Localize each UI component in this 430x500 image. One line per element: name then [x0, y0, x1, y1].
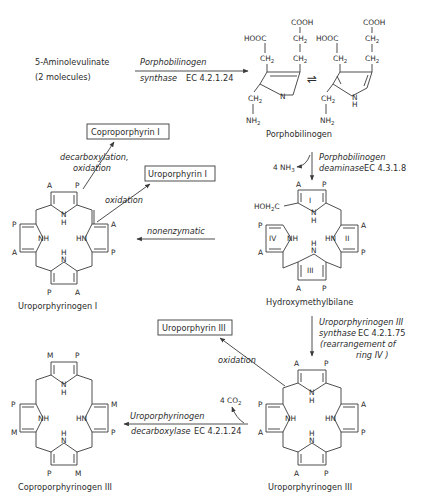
- uroporphyrin-i-label: Uroporphyrin I: [148, 169, 207, 179]
- step-pbg-deaminase: 4 NH3 Porphobilinogen deaminase EC 4.3.1…: [273, 152, 406, 180]
- svg-text:NH2: NH2: [246, 116, 261, 126]
- coproporphyrinogen-iii-structure: N H M P NH P M HN M P N H P M: [11, 351, 117, 478]
- svg-text:HOOC: HOOC: [244, 34, 266, 43]
- svg-text:COOH: COOH: [291, 18, 313, 27]
- coproporphyrinogen-iii-label: Coproporphyrinogen III: [18, 482, 112, 492]
- hydroxymethylbilane-label: Hydroxymethylbilane: [266, 297, 353, 307]
- enzyme-name-line1: Porphobilinogen: [140, 57, 206, 67]
- svg-text:P: P: [47, 469, 52, 478]
- svg-text:A: A: [361, 400, 366, 409]
- svg-text:A: A: [258, 428, 263, 437]
- svg-text:P: P: [11, 400, 16, 409]
- step-uro-decarboxylase: 4 CO2 Uroporphyrinogen decarboxylase EC …: [124, 396, 248, 436]
- svg-text:A: A: [294, 469, 299, 478]
- uroporphyrinogen-i-structure: N H A P NH P A HN A P N H P A: [12, 181, 116, 297]
- svg-text:HN: HN: [325, 234, 336, 243]
- svg-text:A: A: [75, 288, 80, 297]
- svg-text:M: M: [47, 351, 53, 360]
- svg-text:A: A: [361, 221, 366, 230]
- svg-text:P: P: [75, 351, 80, 360]
- svg-text:IV: IV: [269, 234, 276, 243]
- porphobilinogen-label: Porphobilinogen: [266, 129, 332, 139]
- svg-text:H: H: [61, 248, 67, 257]
- svg-text:H: H: [311, 216, 317, 225]
- substrate-name: 5-Aminolevulinate: [35, 57, 109, 67]
- byproduct-co2: 4 CO2: [220, 396, 242, 406]
- svg-text:CH2: CH2: [293, 34, 307, 44]
- enzyme-name-line2: decarboxylase: [131, 426, 191, 436]
- svg-text:HN: HN: [325, 414, 336, 423]
- enzyme-name-line1: Porphobilinogen: [319, 152, 385, 162]
- svg-text:P: P: [47, 288, 52, 297]
- svg-text:P: P: [111, 248, 116, 257]
- hydroxymethylbilane-structure: I N H A P HOH2C II HN A P III N H A P IV: [254, 180, 366, 293]
- svg-text:H: H: [309, 396, 315, 405]
- svg-text:P: P: [322, 284, 327, 293]
- svg-text:P: P: [75, 181, 80, 190]
- svg-text:CH2: CH2: [365, 34, 379, 44]
- byproduct-arrow: [232, 407, 244, 423]
- svg-text:P: P: [111, 428, 116, 437]
- svg-text:NH: NH: [38, 414, 49, 423]
- hydroxymethyl-group: HOH2C: [254, 202, 280, 212]
- svg-text:CH2: CH2: [248, 94, 262, 104]
- svg-text:P: P: [361, 428, 366, 437]
- uroporphyrinogen-iii-label: Uroporphyrinogen III: [268, 482, 352, 492]
- step-note-line2: ring IV ): [356, 350, 388, 360]
- svg-text:NH2: NH2: [320, 116, 335, 126]
- svg-text:I: I: [309, 196, 311, 205]
- svg-text:H: H: [309, 429, 315, 438]
- step-nonenzymatic: nonenzymatic: [137, 226, 215, 239]
- step-uro-iii-synthase: Uroporphyrinogen III synthase EC 4.2.1.7…: [312, 316, 405, 360]
- svg-text:P: P: [322, 180, 327, 189]
- porphobilinogen-tautomer-2: COOH CH2 HOOC CH2 CH2 N H CH2 NH2: [316, 18, 385, 126]
- svg-text:H: H: [311, 239, 317, 248]
- svg-text:A: A: [258, 248, 263, 257]
- coproporphyrin-i-label: Coproporphyrin I: [91, 127, 160, 137]
- svg-text:HN: HN: [76, 234, 87, 243]
- uroporphyrinogen-i-label: Uroporphyrinogen I: [18, 301, 97, 311]
- svg-text:A: A: [296, 284, 301, 293]
- substrate-count: (2 molecules): [35, 72, 91, 82]
- svg-text:P: P: [258, 221, 263, 230]
- svg-text:II: II: [345, 234, 349, 243]
- svg-text:HN: HN: [76, 414, 87, 423]
- side-reaction-uroporphyrin-i: Uroporphyrin I oxidation: [97, 166, 215, 222]
- oxidation-label: oxidation: [218, 355, 256, 365]
- equilibrium-arrow: ⇌: [307, 72, 317, 86]
- svg-text:HOOC: HOOC: [316, 34, 338, 43]
- svg-text:H: H: [352, 100, 358, 109]
- uroporphyrinogen-iii-structure: N H A P NH P A HN A P N H A P: [258, 359, 366, 478]
- step-pbg-synthase: Porphobilinogen synthase EC 4.2.1.24: [135, 57, 248, 83]
- svg-text:CH2: CH2: [321, 94, 335, 104]
- svg-text:A: A: [296, 180, 301, 189]
- oxidation-label: oxidation: [73, 163, 111, 173]
- svg-text:A: A: [111, 220, 116, 229]
- svg-text:N: N: [280, 92, 286, 101]
- svg-text:P: P: [12, 220, 17, 229]
- svg-text:P: P: [324, 469, 329, 478]
- enzyme-name-line1: Uroporphyrinogen III: [319, 317, 404, 327]
- svg-text:P: P: [361, 248, 366, 257]
- step-label: nonenzymatic: [147, 226, 205, 236]
- decarboxylation-label: decarboxylation,: [60, 152, 129, 162]
- svg-text:M: M: [111, 400, 117, 409]
- enzyme-name-line2: synthase: [319, 328, 356, 338]
- svg-text:H: H: [61, 388, 67, 397]
- svg-text:M: M: [75, 469, 81, 478]
- svg-text:CH2: CH2: [333, 54, 347, 64]
- svg-text:P: P: [258, 400, 263, 409]
- enzyme-ec-number: EC 4.2.1.75: [358, 328, 405, 338]
- svg-text:CH2: CH2: [365, 54, 379, 64]
- svg-text:III: III: [307, 266, 314, 275]
- svg-text:M: M: [11, 428, 17, 437]
- oxidation-label: oxidation: [105, 195, 143, 205]
- svg-text:CH2: CH2: [293, 54, 307, 64]
- enzyme-ec-number: EC 4.3.1.8: [364, 163, 406, 173]
- svg-text:COOH: COOH: [363, 18, 385, 27]
- svg-text:CH2: CH2: [260, 54, 274, 64]
- enzyme-name-line2: synthase: [140, 73, 177, 83]
- svg-text:P: P: [324, 359, 329, 368]
- svg-text:A: A: [47, 181, 52, 190]
- uroporphyrin-iii-label: Uroporphyrin III: [162, 323, 226, 333]
